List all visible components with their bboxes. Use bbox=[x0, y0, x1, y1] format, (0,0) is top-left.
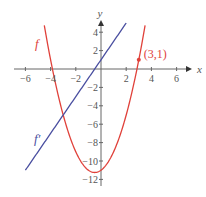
curves bbox=[25, 23, 145, 173]
axes bbox=[14, 20, 192, 186]
x-tick-label: −6 bbox=[20, 73, 31, 84]
x-tick-label: −2 bbox=[70, 73, 81, 84]
x-tick-label: −4 bbox=[45, 73, 56, 84]
y-tick-label: −8 bbox=[87, 137, 98, 148]
y-tick-label: −10 bbox=[82, 156, 98, 167]
y-tick-label: −6 bbox=[87, 119, 98, 130]
y-axis-label: y bbox=[97, 7, 103, 19]
x-tick-label: 6 bbox=[174, 73, 179, 84]
curve-label-f-prime: f′ bbox=[34, 131, 41, 146]
x-axis-arrow-icon bbox=[186, 66, 192, 72]
y-tick-label: 4 bbox=[93, 27, 98, 38]
point-marker bbox=[137, 58, 141, 62]
x-axis-label: x bbox=[196, 63, 202, 75]
x-tick-label: 2 bbox=[124, 73, 129, 84]
curve-label-f: f bbox=[35, 36, 41, 51]
y-tick-label: 2 bbox=[93, 45, 98, 56]
y-tick-label: −2 bbox=[87, 82, 98, 93]
curve-f-prime bbox=[25, 23, 126, 170]
y-tick-label: −4 bbox=[87, 100, 98, 111]
point-label: (3,1) bbox=[144, 47, 167, 61]
y-axis-arrow-icon bbox=[98, 20, 104, 26]
function-graph: −6−4−224642−2−4−6−8−10−12xyff′(3,1) bbox=[0, 0, 206, 197]
y-tick-label: −12 bbox=[82, 174, 98, 185]
x-tick-label: 4 bbox=[149, 73, 154, 84]
